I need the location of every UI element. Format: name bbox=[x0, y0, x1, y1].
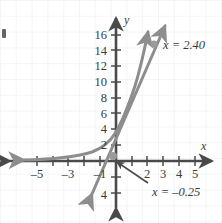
y-tick-label: 12 bbox=[95, 59, 108, 73]
annotation-upper-root: x = 2.40 bbox=[162, 38, 206, 52]
y-tick-label-negative-four: 4 bbox=[101, 188, 108, 202]
x-tick-label: –5 bbox=[30, 167, 44, 181]
y-axis-label: y bbox=[123, 13, 130, 27]
y-tick-label: 10 bbox=[95, 75, 108, 89]
y-tick-label: 6 bbox=[101, 107, 107, 121]
x-tick-label: 3 bbox=[160, 167, 166, 181]
y-tick-label: 14 bbox=[95, 44, 108, 58]
y-tick-label: 16 bbox=[95, 28, 108, 42]
x-tick-label: –3 bbox=[61, 167, 75, 181]
y-tick-label: 8 bbox=[101, 91, 107, 105]
y-tick-label: 4 bbox=[101, 122, 108, 136]
scan-artifact bbox=[2, 29, 6, 38]
intersection-point-upper bbox=[151, 41, 158, 48]
x-tick-label: –1 bbox=[93, 167, 107, 181]
graph-figure: y x 16 14 12 10 8 6 4 2 4 –5 –3 –1 2 3 4… bbox=[0, 0, 222, 223]
x-tick-label: 5 bbox=[192, 167, 198, 181]
x-axis-label: x bbox=[200, 139, 207, 153]
x-tick-label: 4 bbox=[176, 167, 183, 181]
annotation-lower-root: x = –0.25 bbox=[151, 185, 200, 199]
y-tick-label: 2 bbox=[101, 138, 107, 152]
intersection-point-lower bbox=[109, 152, 117, 160]
coordinate-plane: y x 16 14 12 10 8 6 4 2 4 –5 –3 –1 2 3 4… bbox=[0, 0, 222, 223]
x-tick-label: 2 bbox=[144, 167, 150, 181]
